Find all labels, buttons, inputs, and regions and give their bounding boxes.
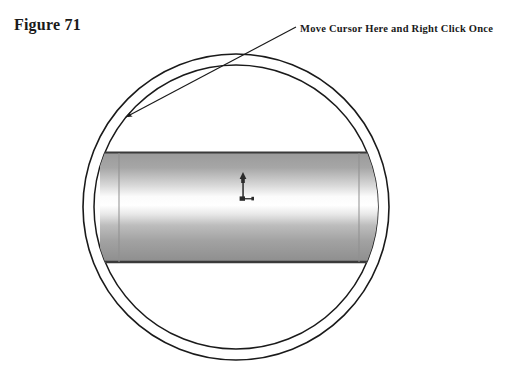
cursor-arm-end-cap <box>251 197 254 201</box>
cad-pick-cursor-icon <box>232 170 266 210</box>
cursor-stem <box>242 182 244 198</box>
cursor-pick-box <box>240 196 245 200</box>
figure-page: Figure 71 Move Cursor Here and Right Cli… <box>0 0 509 373</box>
cursor-arrow-tip <box>240 172 247 179</box>
